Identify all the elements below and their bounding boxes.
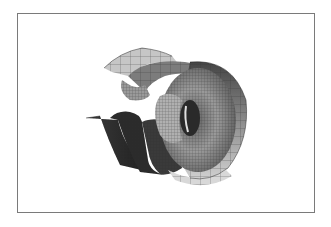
spiral-surface-render: [0, 0, 331, 227]
